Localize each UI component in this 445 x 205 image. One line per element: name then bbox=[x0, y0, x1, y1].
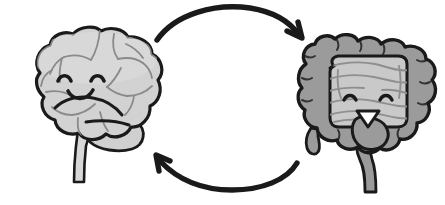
illustration-canvas bbox=[0, 0, 445, 205]
gut-brain-axis-figure: Gut-Brain Axis Brain Intestine Brain to … bbox=[0, 0, 445, 205]
